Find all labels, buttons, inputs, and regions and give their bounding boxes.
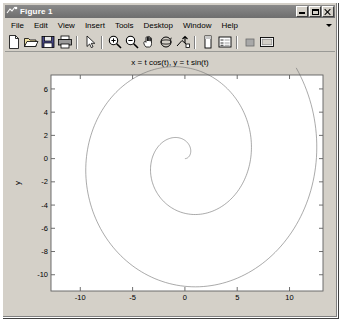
menu-item-insert[interactable]: Insert — [80, 20, 110, 31]
pan-hand-icon[interactable] — [141, 34, 157, 50]
menu-bar: File Edit View Insert Tools Desktop Wind… — [5, 19, 335, 32]
y-axis-label: y — [13, 181, 22, 185]
insert-legend-icon[interactable] — [217, 34, 233, 50]
status-area — [6, 305, 334, 315]
matlab-figure-icon — [6, 6, 18, 17]
zoom-out-icon[interactable] — [124, 34, 140, 50]
window-title: Figure 1 — [20, 7, 53, 16]
title-bar: Figure 1 — [5, 5, 335, 18]
hide-plot-tools-icon[interactable] — [242, 34, 258, 50]
svg-text:0: 0 — [44, 154, 48, 163]
svg-text:-8: -8 — [41, 247, 48, 256]
rotate-3d-icon[interactable] — [158, 34, 174, 50]
edit-plot-arrow-icon[interactable] — [82, 34, 98, 50]
close-button[interactable] — [322, 6, 334, 17]
toolbar-separator — [194, 36, 196, 49]
svg-text:-6: -6 — [41, 224, 48, 233]
menu-item-desktop[interactable]: Desktop — [139, 20, 178, 31]
svg-text:-10: -10 — [75, 293, 86, 302]
menu-item-edit[interactable]: Edit — [29, 20, 53, 31]
chevron-down-icon[interactable] — [326, 24, 332, 27]
svg-text:-10: -10 — [37, 270, 48, 279]
minimize-button[interactable] — [296, 6, 308, 17]
toolbar-separator — [101, 36, 103, 49]
data-cursor-icon[interactable] — [175, 34, 191, 50]
svg-text:2: 2 — [44, 131, 48, 140]
open-file-icon[interactable] — [23, 34, 39, 50]
svg-text:-5: -5 — [129, 293, 136, 302]
svg-text:0: 0 — [183, 293, 187, 302]
plot-title: x = t cos(t), y = t sin(t) — [131, 58, 209, 67]
window-controls — [296, 6, 334, 17]
insert-colorbar-icon[interactable] — [200, 34, 216, 50]
menu-item-file[interactable]: File — [5, 20, 29, 31]
show-plot-tools-icon[interactable] — [259, 34, 275, 50]
svg-text:10: 10 — [285, 293, 293, 302]
svg-text:5: 5 — [235, 293, 239, 302]
toolbar — [5, 33, 335, 52]
svg-text:-2: -2 — [41, 177, 48, 186]
figure-window: Figure 1 File Edit View Insert Tools Des… — [2, 2, 338, 318]
menu-item-view[interactable]: View — [53, 20, 80, 31]
spiral-plot: x = t cos(t), y = t sin(t) -10-505106420… — [6, 53, 334, 305]
print-figure-icon[interactable] — [57, 34, 73, 50]
toolbar-separator — [76, 36, 78, 49]
svg-text:6: 6 — [44, 85, 48, 94]
svg-text:4: 4 — [44, 108, 48, 117]
new-figure-icon[interactable] — [6, 34, 22, 50]
menu-item-window[interactable]: Window — [178, 20, 216, 31]
save-figure-icon[interactable] — [40, 34, 56, 50]
figure-canvas[interactable]: x = t cos(t), y = t sin(t) -10-505106420… — [6, 53, 334, 305]
menu-item-tools[interactable]: Tools — [110, 20, 139, 31]
maximize-button[interactable] — [309, 6, 321, 17]
menu-item-help[interactable]: Help — [216, 20, 242, 31]
svg-text:-4: -4 — [41, 201, 48, 210]
zoom-in-icon[interactable] — [107, 34, 123, 50]
toolbar-separator — [236, 36, 238, 49]
